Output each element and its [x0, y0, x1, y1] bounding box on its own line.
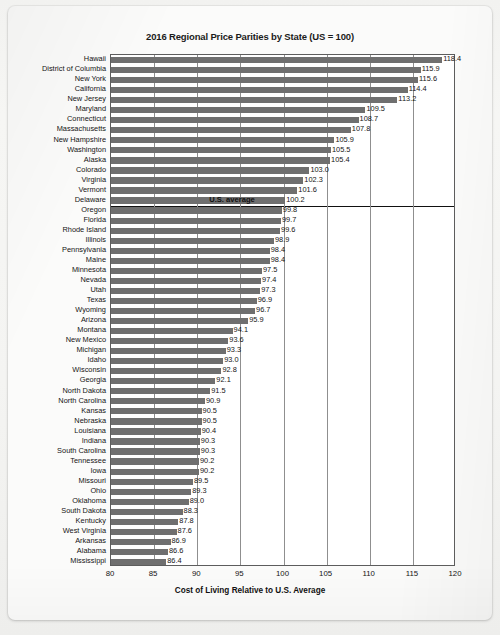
bar-value-label: 86.4	[167, 557, 181, 564]
state-label: Hawaii	[84, 55, 106, 62]
bar	[111, 489, 191, 495]
bar	[111, 288, 260, 294]
bar-value-label: 118.4	[443, 55, 461, 62]
bar-row	[111, 278, 454, 284]
bar-value-label: 99.6	[281, 226, 295, 233]
bar	[111, 458, 199, 464]
bar	[111, 479, 193, 485]
bar-value-label: 105.4	[331, 156, 350, 163]
bar-row	[111, 288, 454, 294]
bar	[111, 278, 261, 284]
bar-value-label: 101.6	[298, 186, 317, 193]
bar-row	[111, 539, 454, 545]
bar-value-label: 96.9	[258, 296, 272, 303]
bar-row	[111, 107, 454, 113]
x-tick-110: 110	[363, 569, 375, 578]
bar	[111, 258, 270, 264]
bar-value-label: 89.5	[194, 477, 208, 484]
bar-value-label: 90.2	[200, 457, 214, 464]
bar-value-label: 99.7	[282, 216, 296, 223]
bar-row	[111, 378, 454, 384]
bar-value-label: 108.7	[360, 115, 379, 122]
state-label: North Dakota	[62, 387, 106, 394]
bar-value-label: 102.3	[304, 176, 323, 183]
bar	[111, 408, 202, 414]
bar-row	[111, 57, 454, 63]
bar	[111, 348, 226, 354]
state-label: Colorado	[76, 166, 106, 173]
state-label: California	[75, 85, 106, 92]
bar-value-label: 92.8	[222, 366, 236, 373]
state-label: South Carolina	[57, 447, 106, 454]
bar-row	[111, 127, 454, 133]
bar-value-label: 115.6	[419, 75, 437, 82]
bar	[111, 197, 285, 203]
x-tick-90: 90	[192, 569, 201, 578]
page-background: 2016 Regional Price Parities by State (U…	[0, 0, 500, 635]
state-label: Washington	[67, 146, 106, 153]
bar	[111, 177, 303, 183]
bar-value-label: 87.8	[179, 517, 193, 524]
bar-row	[111, 529, 454, 535]
bar-value-label: 93.3	[227, 346, 241, 353]
bar-row	[111, 157, 454, 163]
bar-row	[111, 338, 454, 344]
bar	[111, 228, 280, 234]
bar-row	[111, 398, 454, 404]
bar-row	[111, 117, 454, 123]
bar-row	[111, 67, 454, 73]
state-label: Mississippi	[70, 557, 106, 564]
bar	[111, 519, 178, 525]
bar-row	[111, 197, 454, 203]
bar-value-label: 105.9	[335, 136, 354, 143]
state-label: Massachusetts	[57, 125, 106, 132]
bar-value-label: 86.6	[169, 547, 183, 554]
state-label: Texas	[87, 296, 106, 303]
bar-value-label: 100.2	[286, 196, 305, 203]
state-label: Maryland	[76, 105, 106, 112]
state-label: South Dakota	[61, 507, 106, 514]
bar	[111, 549, 168, 555]
state-label: Iowa	[90, 467, 106, 474]
bar-value-label: 90.3	[201, 437, 215, 444]
bar	[111, 469, 199, 475]
bar	[111, 318, 248, 324]
state-label: Ohio	[90, 487, 106, 494]
bar	[111, 127, 351, 133]
bar	[111, 388, 210, 394]
bar	[111, 539, 171, 545]
bar-value-label: 88.3	[184, 507, 198, 514]
state-label: Wyoming	[75, 306, 106, 313]
state-label: Illinois	[85, 236, 106, 243]
state-label: New Hampshire	[53, 136, 106, 143]
state-label: North Carolina	[58, 397, 106, 404]
bar-row	[111, 77, 454, 83]
state-label: Virginia	[81, 176, 106, 183]
state-label: West Virginia	[63, 527, 106, 534]
x-tick-80: 80	[106, 569, 115, 578]
bar-value-label: 97.3	[261, 286, 275, 293]
x-tick-85: 85	[149, 569, 158, 578]
bar	[111, 167, 309, 173]
bar	[111, 308, 255, 314]
state-label: Louisiana	[74, 427, 106, 434]
state-label: Oregon	[81, 206, 106, 213]
bar-row	[111, 348, 454, 354]
bar	[111, 428, 201, 434]
state-label: District of Columbia	[42, 65, 106, 72]
bar-value-label: 90.2	[200, 467, 214, 474]
bar	[111, 529, 177, 535]
bar	[111, 218, 281, 224]
bar-row	[111, 519, 454, 525]
state-label: Nevada	[81, 276, 106, 283]
bar-value-label: 103.0	[310, 166, 329, 173]
state-label: Vermont	[78, 186, 106, 193]
state-label: Alabama	[77, 547, 106, 554]
bar-value-label: 93.6	[229, 336, 243, 343]
bar	[111, 418, 202, 424]
state-label: Tennessee	[70, 457, 106, 464]
bar	[111, 77, 418, 83]
state-label: Arizona	[81, 316, 106, 323]
bar	[111, 298, 257, 304]
state-label: New Mexico	[66, 336, 106, 343]
